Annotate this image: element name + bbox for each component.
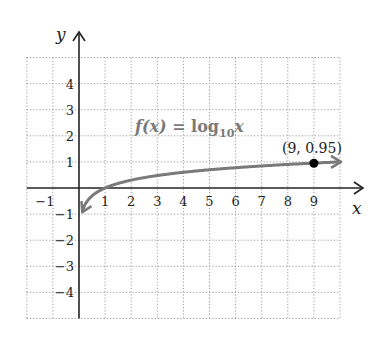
x-tick-label: 6 [231, 194, 239, 209]
x-tick-label: 4 [179, 194, 187, 209]
y-tick-label: −1 [55, 207, 74, 222]
x-tick-label: 3 [153, 194, 161, 209]
y-tick-label: 2 [66, 129, 74, 144]
x-tick-label: 9 [310, 194, 318, 209]
data-point-marker [309, 159, 318, 168]
x-tick-label: 7 [258, 194, 266, 209]
y-axis-label: y [55, 24, 66, 44]
log-function-chart: −11234567894321−1−2−3−4 (9, 0.95) f(x) =… [0, 0, 377, 351]
data-point-label: (9, 0.95) [282, 140, 342, 156]
y-tick-label: −4 [55, 285, 74, 300]
y-tick-label: 4 [66, 77, 74, 92]
x-tick-label: 2 [127, 194, 135, 209]
y-tick-label: 3 [66, 103, 74, 118]
x-tick-label: −1 [35, 194, 54, 209]
function-label: f(x) = log10x [134, 117, 244, 140]
x-tick-label: 8 [284, 194, 292, 209]
y-tick-label: −3 [55, 259, 74, 274]
x-axis-label: x [352, 198, 362, 218]
x-tick-label: 1 [101, 194, 109, 209]
axes [27, 32, 363, 319]
y-tick-label: 1 [66, 155, 74, 170]
y-tick-label: −2 [55, 233, 74, 248]
x-tick-label: 5 [205, 194, 213, 209]
